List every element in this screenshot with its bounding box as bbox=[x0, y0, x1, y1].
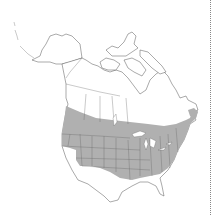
range-map bbox=[0, 0, 216, 215]
panel-divider bbox=[210, 0, 211, 215]
arctic-islands-2 bbox=[100, 58, 120, 70]
aleutian-islands bbox=[14, 22, 34, 58]
alaska-landmass bbox=[32, 34, 82, 64]
arctic-islands bbox=[106, 32, 138, 56]
arctic-islands-3 bbox=[124, 58, 146, 76]
